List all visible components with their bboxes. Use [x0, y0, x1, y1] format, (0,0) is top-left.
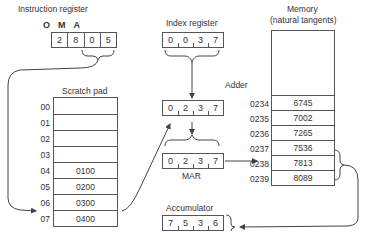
- instruction-register-field-labels: O M A: [43, 20, 103, 30]
- accumulator-register: 7 5 3 6: [162, 215, 224, 231]
- field-label-opcode: O: [43, 20, 50, 30]
- memory-addr: 0239: [245, 174, 269, 184]
- instruction-register: 2 8 0 5: [51, 32, 117, 48]
- index-digit: 0: [163, 33, 178, 47]
- mar-digit: 2: [178, 154, 193, 168]
- memory-addr: 0235: [245, 114, 269, 124]
- adder-digit: 0: [163, 101, 178, 115]
- memory-addr: 0234: [245, 99, 269, 109]
- scratch-pad-addr: 03: [34, 150, 50, 160]
- scratch-pad-title: Scratch pad: [62, 86, 107, 96]
- instruction-register-title: Instruction register: [18, 4, 88, 14]
- memory-cell: 7813: [272, 155, 334, 170]
- scratch-pad-cell: 0400: [54, 210, 117, 226]
- memory-cell: 7536: [272, 140, 334, 155]
- memory-addr: 0237: [245, 144, 269, 154]
- memory-empty-region: [272, 31, 334, 95]
- index-digit: 7: [208, 33, 223, 47]
- scratch-pad-cell: [54, 130, 117, 146]
- index-register-title: Index register: [166, 18, 218, 28]
- index-digit: 0: [178, 33, 193, 47]
- adder-digit: 3: [193, 101, 208, 115]
- accumulator-digit: 6: [208, 216, 223, 230]
- scratch-pad-table: 0100 0200 0300 0400: [53, 97, 118, 227]
- scratch-pad-cell: [54, 98, 117, 114]
- ir-digit: 8: [67, 33, 83, 47]
- scratch-pad-cell: [54, 146, 117, 162]
- scratch-pad-addr: 06: [34, 198, 50, 208]
- ir-digit: 2: [52, 33, 67, 47]
- ir-digit: 5: [100, 33, 116, 47]
- mar-digit: 0: [163, 154, 178, 168]
- mar-digit: 3: [193, 154, 208, 168]
- scratch-pad-cell: 0300: [54, 194, 117, 210]
- accumulator-digit: 7: [163, 216, 178, 230]
- scratch-pad-addr: 05: [34, 182, 50, 192]
- memory-cell: 6745: [272, 95, 334, 110]
- memory-subtitle: (natural tangents): [270, 15, 337, 25]
- memory-table: 6745 7002 7265 7536 7813 8089: [271, 30, 335, 186]
- memory-cell: 8089: [272, 170, 334, 185]
- memory-cell: 7265: [272, 125, 334, 140]
- scratch-pad-cell: 0200: [54, 178, 117, 194]
- mar-digit: 7: [208, 154, 223, 168]
- accumulator-digit: 5: [178, 216, 193, 230]
- mar-title: MAR: [182, 171, 201, 181]
- index-register: 0 0 3 7: [162, 32, 224, 48]
- accumulator-digit: 3: [193, 216, 208, 230]
- adder-digit: 2: [178, 101, 193, 115]
- scratch-pad-cell: [54, 114, 117, 130]
- scratch-pad-addr: 00: [34, 102, 50, 112]
- memory-addr: 0238: [245, 159, 269, 169]
- scratch-pad-addr: 07: [34, 214, 50, 224]
- adder-digit: 7: [208, 101, 223, 115]
- index-digit: 3: [193, 33, 208, 47]
- accumulator-title: Accumulator: [166, 203, 213, 213]
- scratch-pad-addr: 04: [34, 166, 50, 176]
- scratch-pad-addr: 02: [34, 134, 50, 144]
- scratch-pad-cell: 0100: [54, 162, 117, 178]
- field-label-mode: M: [58, 20, 66, 30]
- ir-digit: 0: [84, 33, 100, 47]
- field-label-address: A: [74, 20, 81, 30]
- adder-register: 0 2 3 7: [162, 100, 224, 116]
- scratch-pad-addr: 01: [34, 118, 50, 128]
- mar-register: 0 2 3 7: [162, 153, 224, 169]
- adder-title: Adder: [225, 80, 248, 90]
- memory-title: Memory: [287, 4, 318, 14]
- memory-addr: 0236: [245, 129, 269, 139]
- memory-cell: 7002: [272, 110, 334, 125]
